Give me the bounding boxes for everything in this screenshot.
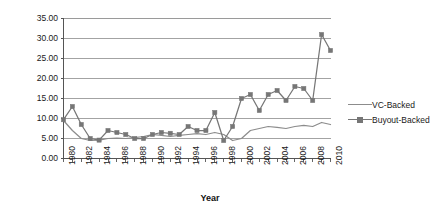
legend-key-line-icon [348, 99, 372, 111]
legend-item-buyout-backed: Buyout-Backed [348, 112, 440, 127]
axis-lines [64, 19, 331, 159]
legend-item-vc-backed: VC-Backed [348, 97, 440, 112]
chart-legend: VC-Backed Buyout-Backed [348, 97, 440, 127]
legend-label-vc-backed: VC-Backed [372, 100, 415, 110]
chart-figure: Median Age at IPO (Yrs) 35.0030.0025.002… [0, 0, 441, 215]
series-line-buyout-backed [61, 32, 332, 142]
legend-key-line-square-icon [348, 114, 372, 126]
x-axis-title: Year [150, 193, 270, 203]
legend-label-buyout-backed: Buyout-Backed [372, 115, 430, 125]
gridlines [64, 19, 331, 139]
